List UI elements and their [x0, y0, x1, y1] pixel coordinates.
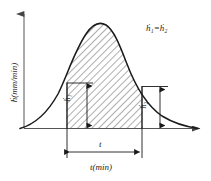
h1-ordinate-label: ḣ₁: [64, 88, 72, 108]
shaded-region: [20, 23, 198, 128]
equality-annotation: ḣ₁=ḣ₂: [146, 24, 167, 33]
t-span-label: t: [99, 140, 102, 149]
x-axis-label: t(min): [73, 163, 129, 172]
plot-canvas: [0, 0, 211, 181]
h2-ordinate-label: ḣ₂: [140, 95, 148, 115]
y-axis-label: ḣ(mm/min): [10, 44, 19, 122]
figure-container: ḣ(mm/min) t(min) ḣ₁=ḣ₂ t ḣ₁ ḣ₂: [0, 0, 211, 181]
